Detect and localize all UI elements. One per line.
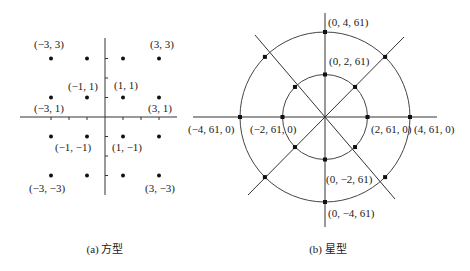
star-caption: (b) 星型 [309,242,347,256]
square-label: (3, 1) [148,102,172,115]
constellation-point [121,57,125,61]
star-label: (0, −2, 61) [326,173,373,186]
constellation-point [323,158,327,162]
constellation-point [49,174,53,178]
constellation-point [49,57,53,61]
constellation-point [323,30,327,34]
square-label: (3, −3) [145,182,175,195]
constellation-point [49,135,53,139]
constellation-point [366,115,370,119]
star-labels: (0, 4, 61) (0, 2, 61) (−4, 61, 0) (−2, 6… [188,16,455,220]
constellation-point [157,57,161,61]
star-label: (4, 61, 0) [414,123,455,136]
square-label: (3, 3) [150,38,174,51]
square-caption: (a) 方型 [87,242,124,256]
constellation-point [49,96,53,100]
constellation-point [263,55,267,59]
constellation-point [157,135,161,139]
constellation-point [85,57,89,61]
square-label: (−3, 3) [34,38,64,51]
star-label: (−2, 61, 0) [250,123,297,136]
star-label: (0, −4, 61) [328,207,375,220]
square-label: (−3, 1) [34,102,64,115]
star-label: (0, 4, 61) [328,16,369,29]
square-label: (1, 1) [114,79,138,92]
constellation-point [85,135,89,139]
constellation-point [323,200,327,204]
constellation-point [238,115,242,119]
square-label: (1, −1) [112,141,142,154]
star-label: (−4, 61, 0) [188,123,235,136]
constellation-point [121,174,125,178]
constellation-point [281,115,285,119]
constellation-point [353,145,357,149]
constellation-point [157,174,161,178]
constellation-point [293,85,297,89]
square-constellation: (−3, 3) (3, 3) (−1, 1) (1, 1) (−3, 1) (3… [20,38,177,256]
square-label: (−1, 1) [68,80,98,93]
constellation-point [85,174,89,178]
constellation-point [353,85,357,89]
star-label: (2, 61, 0) [371,123,412,136]
constellation-diagrams: (−3, 3) (3, 3) (−1, 1) (1, 1) (−3, 1) (3… [0,0,470,271]
constellation-point [323,73,327,77]
constellation-point [121,96,125,100]
star-label: (0, 2, 61) [329,55,370,68]
constellation-point [293,145,297,149]
constellation-point [121,135,125,139]
constellation-point [383,55,387,59]
square-label: (−1, −1) [55,141,92,154]
constellation-point [263,175,267,179]
constellation-point [157,96,161,100]
constellation-point [85,96,89,100]
constellation-point [383,175,387,179]
constellation-point [408,115,412,119]
star-constellation: (0, 4, 61) (0, 2, 61) (−4, 61, 0) (−2, 6… [188,13,455,256]
star-diagonal-up [248,37,404,195]
square-label: (−3, −3) [29,182,66,195]
